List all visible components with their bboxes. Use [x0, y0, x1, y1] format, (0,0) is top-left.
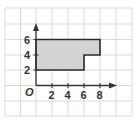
x-tick-label: 4 [65, 89, 72, 101]
x-tick-label: 8 [97, 89, 103, 101]
x-tick-label: 6 [81, 89, 87, 101]
coordinate-grid-figure: O 2 4 6 8 2 4 6 [0, 0, 136, 121]
origin-label: O [25, 86, 34, 98]
x-tick-label: 2 [49, 89, 55, 101]
y-tick-label: 4 [24, 49, 31, 61]
y-tick-label: 2 [24, 64, 30, 76]
shaded-polygon [36, 40, 100, 71]
y-tick-label: 6 [24, 34, 30, 46]
grid-svg: O 2 4 6 8 2 4 6 [0, 0, 136, 121]
